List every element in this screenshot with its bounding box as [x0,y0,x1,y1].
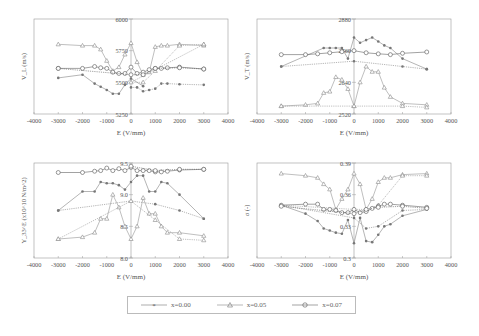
triangle-marker [159,43,163,47]
y-axis-label: σ (-) [243,205,251,217]
triangle-marker [141,80,145,84]
triangle-marker [177,230,181,234]
triangle-marker [370,70,374,74]
star-marker [136,86,139,89]
circle-marker [141,73,145,77]
circle-marker [153,66,157,70]
star-marker [136,174,139,177]
circle-marker [364,207,368,211]
circle-marker [99,169,103,173]
circle-marker [364,51,368,55]
star-marker [118,92,121,95]
triangle-marker [153,218,157,222]
triangle-marker [129,237,133,241]
star-marker [57,209,60,212]
circle-marker [382,202,386,206]
star-marker [371,241,374,244]
circle-marker [388,53,392,57]
star-marker [57,77,60,80]
x-tick-label: -3000 [274,117,289,124]
circle-marker [279,53,283,57]
x-tick-label: -2000 [298,261,313,268]
y-tick-label: 6000 [115,16,128,23]
star-marker [280,65,283,68]
star-marker [389,47,392,50]
circle-marker [304,53,308,57]
y-tick-label: 2520 [338,111,351,118]
chart-panel-bottom-left: -4000-3000-2000-1000010002000300040008.0… [20,160,234,282]
star-marker [99,181,102,184]
star-marker [202,217,205,220]
circle-marker [202,67,206,71]
star-marker [142,174,145,177]
star-marker [154,190,157,193]
x-tick-label: 1000 [149,261,162,268]
triangle-marker [388,95,392,99]
star-marker [347,219,350,222]
circle-marker [340,50,344,54]
circle-marker [352,212,356,216]
star-marker [81,190,84,193]
x-tick-label: 1000 [372,117,385,124]
star-marker [130,77,133,80]
star-marker [328,229,331,232]
star-marker [142,90,145,93]
triangle-marker [358,80,362,84]
star-marker [124,188,127,191]
triangle-marker [352,171,356,175]
legend-item-x000: * x=0.00 [141,301,191,309]
svg-text:*: * [152,302,156,310]
x-tick-label: -4000 [27,117,42,124]
star-marker [160,181,163,184]
y-tick-label: 0.3 [343,255,351,262]
triangle-marker [93,43,97,47]
triangle-marker [56,42,60,46]
x-tick-label: 1000 [149,117,162,124]
triangle-marker [279,104,283,108]
legend-item-x007: x=0.07 [292,301,342,309]
x-tick-label: 3000 [420,261,433,268]
triangle-marker [93,230,97,234]
star-marker [178,83,181,86]
star-marker [365,227,368,230]
triangle-marker [202,238,206,242]
star-marker [124,84,127,87]
circle-marker [316,52,320,56]
triangle-marker [370,197,374,201]
circle-marker-icon [292,301,318,309]
triangle-marker [328,89,332,93]
x-tick-label: 2000 [396,261,409,268]
circle-marker [135,169,139,173]
x-tick-label: 2000 [173,117,186,124]
chart-panel-top-left: -4000-3000-2000-100001000200030004000525… [20,16,234,138]
circle-marker [105,166,109,170]
star-marker [105,89,108,92]
star-marker [401,57,404,60]
x-tick-label: 2000 [173,261,186,268]
triangle-marker [382,85,386,89]
star-marker [93,190,96,193]
star-marker [99,85,102,88]
star-marker [178,193,181,196]
star-marker [202,84,205,87]
triangle-marker-icon [217,301,243,309]
star-marker [130,181,133,184]
triangle-marker [352,104,356,108]
star-marker [154,203,157,206]
circle-marker [401,204,405,208]
triangle-marker [105,217,109,221]
chart-panel-bottom-right: -4000-3000-2000-1000010002000300040000.3… [243,160,457,282]
circle-marker [153,169,157,173]
star-marker-icon: * [141,301,167,309]
x-tick-label: -2000 [298,117,313,124]
y-tick-label: 9.0 [120,191,128,198]
circle-marker [358,211,362,215]
triangle-marker [316,101,320,105]
x-tick-label: -4000 [250,117,265,124]
star-marker [401,209,404,212]
x-tick-label: 4000 [222,117,235,124]
circle-marker [129,164,133,168]
circle-marker [178,66,182,70]
star-marker [365,240,368,243]
circle-marker [376,52,380,56]
